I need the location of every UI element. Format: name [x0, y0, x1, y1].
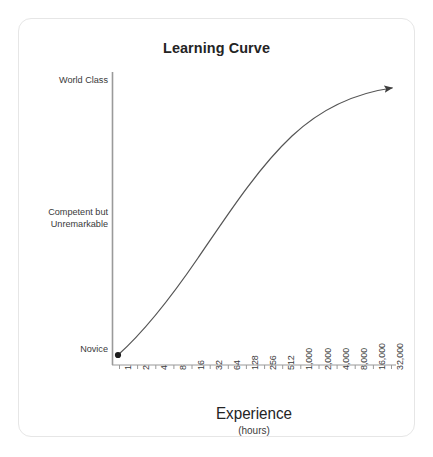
x-axis-tick-label: 32,000: [395, 343, 405, 370]
x-axis-tick-label: 4,000: [341, 348, 351, 370]
chart-screenshot: Learning Curve World Class Competent but…: [0, 0, 433, 457]
x-axis-tick-label: 16: [196, 360, 206, 370]
x-axis-tick-label: 1,000: [304, 348, 314, 370]
x-axis-title-units: (hours): [119, 424, 389, 436]
x-axis-tick-labels: 12481632641282565121,0002,0004,0008,0001…: [0, 0, 433, 457]
x-axis-title: Experience: [119, 405, 389, 423]
x-axis-tick-label: 2: [141, 365, 151, 370]
x-axis-tick-label: 4: [159, 365, 169, 370]
x-axis-tick-label: 128: [250, 355, 260, 370]
x-axis-tick-label: 256: [268, 355, 278, 370]
x-axis-tick-label: 16,000: [377, 343, 387, 370]
x-axis-tick-label: 32: [214, 360, 224, 370]
x-axis-tick-label: 512: [286, 355, 296, 370]
x-axis-tick-label: 2,000: [323, 348, 333, 370]
x-axis-tick-label: 8: [178, 365, 188, 370]
x-axis-tick-label: 8,000: [359, 348, 369, 370]
x-axis-tick-label: 1: [123, 365, 133, 370]
x-axis-tick-label: 64: [232, 360, 242, 370]
